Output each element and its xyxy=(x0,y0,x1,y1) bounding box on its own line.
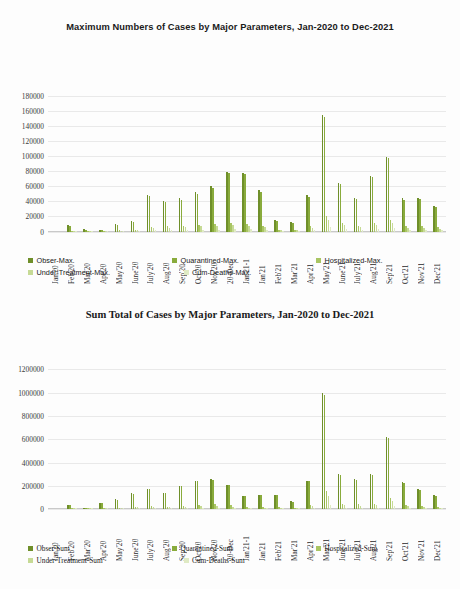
bar-group xyxy=(48,369,64,509)
legend-item[interactable]: Obser-Max. xyxy=(28,256,172,265)
bar-group xyxy=(382,369,398,509)
legend-item[interactable]: Cum-Deaths-Max. xyxy=(184,268,340,277)
bar xyxy=(441,508,443,509)
bar-group xyxy=(159,369,175,509)
y-axis-tick-label: 1000000 xyxy=(18,388,44,397)
legend-label: Cum-Deaths-Sum xyxy=(192,556,245,565)
bar xyxy=(324,117,326,232)
legend-item[interactable]: Quarantined-Max. xyxy=(172,256,316,265)
y-axis-tick-label: 180000 xyxy=(22,91,44,100)
plot-sum xyxy=(48,369,446,509)
bar xyxy=(139,231,141,232)
legend-swatch-icon xyxy=(28,258,33,263)
y-axis-tick-label: 160000 xyxy=(22,106,44,115)
bar xyxy=(202,508,204,509)
bar-group xyxy=(96,369,112,509)
bar-group xyxy=(239,369,255,509)
bar xyxy=(362,230,364,232)
legend-item[interactable]: Cum-Deaths-Sum xyxy=(184,556,340,565)
legend-label: Obser-Max. xyxy=(37,256,75,265)
y-axis-tick-label: 0 xyxy=(40,505,44,514)
bar xyxy=(266,508,268,509)
bar-group xyxy=(207,369,223,509)
bar xyxy=(314,508,316,509)
bar xyxy=(250,508,252,509)
bar-groups xyxy=(48,369,446,509)
legend-item[interactable]: Hospitalized-Max. xyxy=(316,256,460,265)
legend-swatch-icon xyxy=(28,558,33,563)
bar-group xyxy=(398,96,414,232)
bar xyxy=(218,508,220,509)
bar xyxy=(394,506,396,509)
bar-group xyxy=(303,369,319,509)
legend-swatch-icon xyxy=(184,270,189,275)
bar xyxy=(139,508,141,509)
legend-item[interactable]: Quarantined-Sum xyxy=(172,544,316,553)
bar-group xyxy=(175,369,191,509)
bar xyxy=(378,508,380,509)
y-axis-tick-label: 120000 xyxy=(22,136,44,145)
bar xyxy=(123,231,125,232)
bar-group xyxy=(207,96,223,232)
bar-group xyxy=(319,96,335,232)
bar-group xyxy=(144,369,160,509)
legend-swatch-icon xyxy=(316,546,321,551)
bar xyxy=(346,508,348,509)
legend-label: Under-Treatment-Max. xyxy=(37,268,111,277)
bar xyxy=(346,229,348,231)
bar xyxy=(234,508,236,509)
chart-title-maximum: Maximum Numbers of Cases by Major Parame… xyxy=(0,0,460,34)
legend-item[interactable]: Under-Treatment-Max. xyxy=(28,268,184,277)
bar-group xyxy=(366,369,382,509)
bar xyxy=(282,231,284,232)
y-axis-tick-label: 60000 xyxy=(26,182,44,191)
bar-group xyxy=(80,96,96,232)
legend-label: Cum-Deaths-Max. xyxy=(192,268,251,277)
bar-group xyxy=(255,96,271,232)
bar-group xyxy=(366,96,382,232)
bar xyxy=(234,229,236,231)
y-axis-tick-label: 100000 xyxy=(22,152,44,161)
bar-group xyxy=(255,369,271,509)
y-axis-tick-label: 1200000 xyxy=(18,365,44,374)
bar-group xyxy=(48,96,64,232)
legend-sum: Obser-SumQuarantined-SumHospitalized-Sum… xyxy=(0,544,460,568)
y-axis-tick-label: 800000 xyxy=(22,411,44,420)
chart-maximum-cases: Maximum Numbers of Cases by Major Parame… xyxy=(0,0,460,300)
bar-group xyxy=(112,369,128,509)
legend-item[interactable]: Under-Treatment-Sum xyxy=(28,556,184,565)
chart-title-sum: Sum Total of Cases by Major Parameters, … xyxy=(0,300,460,321)
figure-page: Maximum Numbers of Cases by Major Parame… xyxy=(0,0,460,589)
bar xyxy=(409,508,411,509)
bar xyxy=(91,508,93,509)
bar-group xyxy=(351,369,367,509)
bar xyxy=(171,230,173,231)
bar xyxy=(123,508,125,509)
legend-swatch-icon xyxy=(184,558,189,563)
bar xyxy=(187,230,189,232)
legend-label: Hospitalized-Sum xyxy=(324,544,377,553)
legend-swatch-icon xyxy=(28,546,33,551)
bar xyxy=(298,231,300,232)
legend-label: Quarantined-Sum xyxy=(180,544,232,553)
y-axis-tick-label: 40000 xyxy=(26,197,44,206)
bar-group xyxy=(64,96,80,232)
bar-group xyxy=(414,96,430,232)
legend-label: Hospitalized-Max. xyxy=(324,256,382,265)
chart-sum-total: Sum Total of Cases by Major Parameters, … xyxy=(0,300,460,589)
legend-item[interactable]: Obser-Sum xyxy=(28,544,172,553)
bar xyxy=(394,228,396,231)
legend-item[interactable]: Hospitalized-Sum xyxy=(316,544,460,553)
bar xyxy=(155,230,157,231)
bar-group xyxy=(430,369,446,509)
bar xyxy=(425,230,427,231)
bar xyxy=(107,508,109,509)
bar xyxy=(250,229,252,231)
bar-group xyxy=(112,96,128,232)
bar xyxy=(314,230,316,231)
bar-group xyxy=(239,96,255,232)
legend-swatch-icon xyxy=(172,546,177,551)
y-axis-tick-label: 600000 xyxy=(22,435,44,444)
bar xyxy=(187,508,189,509)
bar-group xyxy=(223,369,239,509)
